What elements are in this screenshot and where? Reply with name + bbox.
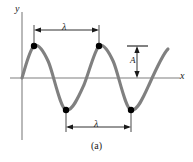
wavelength-top-arrowhead-left	[34, 27, 41, 32]
wavelength-top-label: λ	[62, 22, 66, 32]
amplitude-label: A	[130, 56, 136, 65]
y-axis-label: y	[15, 4, 19, 14]
figure-caption: (a)	[0, 141, 193, 151]
wavelength-bottom-arrowhead-left	[66, 124, 73, 129]
wavelength-top-arrowhead-right	[92, 27, 99, 32]
wavelength-bottom-label: λ	[94, 119, 98, 129]
wave-figure: y x λ λ A (a)	[0, 0, 193, 162]
trough-marker-1	[63, 107, 69, 113]
wave-diagram-canvas	[0, 0, 193, 162]
trough-marker-2	[128, 107, 134, 113]
x-axis-label: x	[180, 71, 184, 81]
amplitude-arrowhead-up	[134, 46, 139, 53]
amplitude-arrowhead-down	[134, 71, 139, 78]
wavelength-bottom-arrowhead-right	[124, 124, 131, 129]
